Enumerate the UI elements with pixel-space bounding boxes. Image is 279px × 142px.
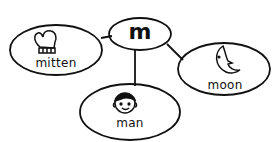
crescent-moon-icon (217, 46, 240, 73)
word-web-diagram: m mitten moon man (0, 0, 279, 142)
mitten-icon (35, 31, 56, 53)
connector-moon (167, 44, 183, 60)
moon-node-label: moon (195, 79, 255, 91)
center-node-label: m (122, 21, 158, 43)
man-face-icon (114, 93, 137, 113)
man-node-label: man (100, 117, 160, 129)
mitten-node-label: mitten (26, 57, 86, 69)
